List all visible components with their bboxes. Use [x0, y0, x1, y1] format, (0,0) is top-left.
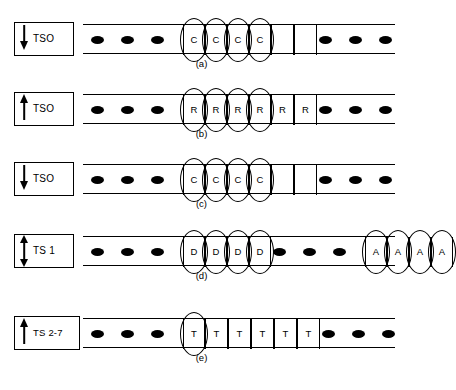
diagram-row-c: TSOCCCC(c) [0, 146, 403, 216]
track-dot [322, 330, 335, 338]
track-e: TTTTTT [83, 318, 395, 348]
slot-cell-text: A [439, 247, 445, 257]
slot-cell-text: C [191, 175, 198, 185]
track-dot [303, 248, 316, 256]
row-label-text: TS 2-7 [33, 328, 63, 338]
slot-cell-T: T [297, 319, 320, 349]
slot-cell-text: A [395, 247, 401, 257]
slot-cell-R: R [271, 95, 294, 125]
slot-cell-text: R [279, 105, 286, 115]
diagram-row-b: TSORRRRRR(b) [0, 76, 403, 146]
slot-cell-text: D [191, 247, 198, 257]
track-dot [91, 176, 104, 184]
track-dot [352, 330, 365, 338]
diagram-row-a: TSOCCCC(a) [0, 6, 403, 76]
slot-cell-D: D [249, 237, 271, 267]
track-c: CCCC [83, 164, 395, 194]
diagram-row-d: TS 1DDDDAAAA(d) [0, 218, 403, 288]
slot-cell-R: R [227, 95, 249, 125]
track-dot [379, 106, 392, 114]
slot-cell-text: C [213, 175, 220, 185]
track-dot [121, 176, 134, 184]
slot-cell-C: C [249, 25, 271, 55]
slot-cell-text: A [373, 247, 379, 257]
track-dot [91, 36, 104, 44]
track-dot [382, 330, 395, 338]
track-dot [151, 248, 164, 256]
row-caption-c: (c) [0, 198, 403, 209]
slot-cell-text: C [257, 35, 264, 45]
row-caption-e: (e) [0, 352, 403, 363]
row-caption-d: (d) [0, 270, 403, 281]
row-label-box-c: TSO [14, 162, 74, 196]
slot-cell-C: C [205, 25, 227, 55]
slot-cell-text: A [417, 247, 423, 257]
slot-cell-text: T [237, 329, 243, 339]
slot-cell-R: R [183, 95, 205, 125]
slot-cell-R: R [294, 95, 317, 125]
track-dot [121, 36, 134, 44]
slot-cell-text: D [257, 247, 264, 257]
slot-cell-T: T [205, 319, 228, 349]
track-dot [91, 248, 104, 256]
slot-cell-R: R [205, 95, 227, 125]
slot-cell-R: R [249, 95, 271, 125]
track-dot [121, 106, 134, 114]
row-label-text: TS 1 [33, 246, 55, 256]
row-label-box-e: TS 2-7 [14, 316, 80, 350]
slot-cell-T: T [183, 319, 205, 349]
arrow-down-icon [15, 22, 33, 56]
row-label-box-b: TSO [14, 92, 74, 126]
track-dot [379, 176, 392, 184]
slot-cell-A: A [365, 237, 387, 267]
track-dot [319, 36, 332, 44]
slot-cell-text: R [191, 105, 198, 115]
slot-cell-T: T [274, 319, 297, 349]
track-dot [121, 330, 134, 338]
row-caption-a: (a) [0, 58, 403, 69]
track-dot [151, 36, 164, 44]
track-dot [319, 176, 332, 184]
slot-cell-text: C [235, 175, 242, 185]
row-caption-b: (b) [0, 128, 403, 139]
track-dot [121, 248, 134, 256]
row-label-text: TSO [33, 174, 54, 184]
slot-cell-T: T [251, 319, 274, 349]
row-label-box-d: TS 1 [14, 234, 74, 268]
track-dot [151, 106, 164, 114]
slot-cell-text: T [191, 329, 197, 339]
track-dot [151, 330, 164, 338]
row-label-text: TSO [33, 104, 54, 114]
slot-cell-text: T [260, 329, 266, 339]
slot-cell [271, 25, 294, 55]
track-dot [333, 248, 346, 256]
track-dot [319, 106, 332, 114]
track-dot [349, 36, 362, 44]
track-dot [151, 176, 164, 184]
track-dot [349, 176, 362, 184]
slot-cell-text: R [213, 105, 220, 115]
track-dot [273, 248, 286, 256]
slot-cell-text: T [306, 329, 312, 339]
slot-cell-D: D [227, 237, 249, 267]
slot-cell-A: A [431, 237, 453, 267]
slot-cell-A: A [387, 237, 409, 267]
slot-cell [271, 165, 294, 195]
row-label-text: TSO [33, 34, 54, 44]
slot-cell-text: D [235, 247, 242, 257]
slot-cell-C: C [227, 25, 249, 55]
slot-cell-C: C [183, 165, 205, 195]
slot-cell-T: T [228, 319, 251, 349]
track-dot [379, 36, 392, 44]
diagram-row-e: TS 2-7TTTTTT(e) [0, 300, 403, 370]
slot-cell-D: D [205, 237, 227, 267]
arrow-up-down-icon [15, 234, 33, 268]
track-dot [349, 106, 362, 114]
slot-cell-text: D [213, 247, 220, 257]
slot-cell-text: R [235, 105, 242, 115]
track-dot [91, 330, 104, 338]
row-label-box-a: TSO [14, 22, 74, 56]
slot-cell-C: C [183, 25, 205, 55]
slot-cell-text: R [302, 105, 309, 115]
